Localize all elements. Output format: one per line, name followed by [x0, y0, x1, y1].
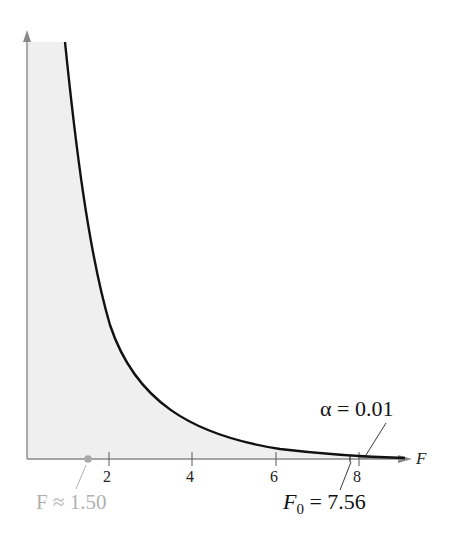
x-axis-label: F: [416, 449, 426, 469]
critical-value-text: = 7.56: [304, 489, 366, 514]
x-tick-label-2: 2: [103, 468, 111, 486]
y-axis-arrow-icon: [23, 30, 31, 42]
critical-value-symbol: F: [283, 489, 296, 514]
alpha-leader-line: [366, 423, 386, 455]
critical-value-subscript: 0: [296, 501, 304, 517]
test-statistic-label: F ≈ 1.50: [36, 490, 106, 515]
x-tick-label-4: 4: [186, 468, 194, 486]
shaded-region: [27, 42, 358, 459]
critical-leader-line: [340, 462, 351, 490]
test-statistic-point: [84, 455, 92, 463]
alpha-label: α = 0.01: [320, 396, 393, 422]
stat-leader-line: [76, 465, 86, 489]
x-tick-label-8: 8: [353, 468, 361, 486]
x-tick-label-6: 6: [270, 468, 278, 486]
f-distribution-chart: [0, 0, 451, 547]
critical-value-label: F0 = 7.56: [283, 489, 366, 518]
